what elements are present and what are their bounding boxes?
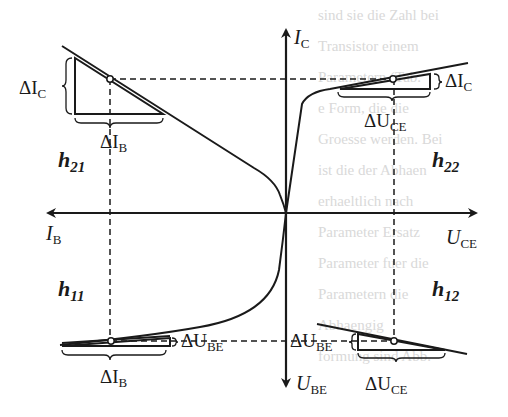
projection-lines (110, 79, 394, 341)
label-delta-ube-left: ΔUBE (181, 330, 224, 354)
label-ube: UBE (296, 372, 327, 397)
operating-points (107, 76, 397, 344)
curve-h22 (286, 63, 468, 213)
label-delta-uce-bottom: ΔUCE (365, 373, 408, 397)
label-ib: IB (45, 222, 62, 247)
braces (62, 58, 445, 362)
label-uce: UCE (446, 226, 477, 251)
label-delta-ube-right: ΔUBE (290, 330, 333, 354)
label-h22: h22 (432, 147, 460, 175)
triangle-h21 (75, 58, 163, 114)
triangle-h22 (340, 74, 430, 89)
label-delta-ic-left: ΔIC (19, 77, 46, 101)
curve-h11 (60, 213, 286, 345)
four-quadrant-diagram: IC IB UCE UBE h21 h22 h11 h12 ΔIC ΔIB ΔI… (0, 0, 508, 417)
label-h12: h12 (432, 276, 460, 304)
point-h21 (107, 76, 113, 82)
axes (48, 30, 476, 386)
triangle-h12 (358, 334, 445, 350)
label-delta-ib-top: ΔIB (100, 131, 128, 155)
label-delta-ib-bottom: ΔIB (100, 366, 128, 390)
label-ic: IC (293, 26, 309, 51)
point-h11 (108, 338, 114, 344)
label-delta-uce-top: ΔUCE (364, 110, 407, 134)
characteristic-curves (60, 46, 468, 354)
label-h21: h21 (58, 147, 85, 175)
delta-triangles (62, 58, 445, 350)
point-h22 (390, 76, 396, 82)
label-h11: h11 (58, 276, 84, 304)
point-h12 (391, 338, 397, 344)
label-delta-ic-right: ΔIC (445, 70, 472, 94)
